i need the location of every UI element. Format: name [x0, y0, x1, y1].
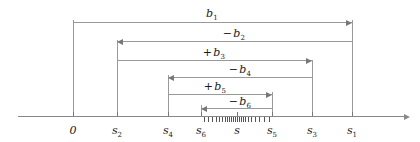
cluster-tick	[269, 117, 270, 122]
cluster-tick	[204, 117, 205, 122]
bracket-symbol-b4: b	[239, 63, 246, 76]
arrowhead-right-icon-b1	[346, 20, 352, 26]
number-line-axis	[18, 116, 404, 117]
endpoint-rule-v-s1	[352, 20, 353, 116]
bracket-label-b5: +b5	[204, 80, 226, 95]
axis-label-s5: s5	[267, 124, 277, 139]
axis-label-origin: 0	[70, 124, 77, 137]
arrowhead-right-icon-b5	[266, 92, 272, 98]
axis-arrowhead-icon	[404, 114, 410, 120]
axis-tick-s3	[312, 112, 313, 116]
bracket-index-b1: 1	[213, 14, 218, 22]
axis-label-index-s5: 5	[273, 131, 277, 139]
bracket-sign-b5: +	[204, 80, 213, 93]
bracket-label-b2: −b2	[223, 27, 245, 42]
bracket-label-b6: −b6	[229, 95, 251, 110]
bracket-sign-b3: +	[203, 46, 212, 59]
axis-label-index-s4: 4	[169, 131, 173, 139]
axis-label-s2: s2	[112, 124, 122, 139]
cluster-tick	[239, 117, 240, 122]
axis-tick-s	[237, 112, 238, 116]
bracket-label-b4: −b4	[229, 63, 251, 78]
endpoint-rule-v-s4	[168, 75, 169, 116]
axis-label-s3: s3	[307, 124, 317, 139]
cluster-tick	[225, 117, 226, 122]
axis-label-index-s1: 1	[353, 131, 357, 139]
cluster-tick	[231, 117, 232, 122]
cluster-tick	[227, 117, 228, 122]
cluster-tick	[243, 117, 244, 122]
cluster-tick	[208, 117, 209, 122]
arrowhead-left-icon-b6	[201, 106, 207, 112]
arrowhead-left-icon-b4	[168, 75, 174, 81]
axis-tick-s4	[168, 112, 169, 116]
bracket-label-b1: b1	[206, 7, 218, 22]
cluster-tick	[229, 117, 230, 122]
axis-label-index-s2: 2	[118, 131, 122, 139]
axis-label-text-origin: 0	[70, 124, 77, 137]
bracket-index-b3: 3	[221, 53, 226, 61]
cluster-tick	[264, 117, 265, 122]
axis-label-s: s	[234, 124, 240, 137]
cluster-tick	[222, 117, 223, 122]
cluster-tick	[216, 117, 217, 122]
bracket-index-b5: 5	[222, 87, 227, 95]
axis-tick-origin	[73, 112, 74, 116]
arrowhead-left-icon-b2	[117, 39, 123, 45]
bracket-symbol-b5: b	[214, 80, 221, 93]
axis-label-s4: s4	[163, 124, 173, 139]
bracket-sign-b4: −	[229, 63, 238, 76]
bracket-sign-b2: −	[223, 27, 232, 40]
axis-tick-s1	[352, 112, 353, 116]
axis-label-text-s: s	[234, 124, 240, 137]
cluster-tick	[255, 117, 256, 122]
nested-interval-diagram: b1−b2+b3−b4+b5−b6 0s2s4s6ss5s3s1	[0, 0, 420, 142]
bracket-label-b3: +b3	[203, 46, 225, 61]
axis-tick-s6	[201, 112, 202, 116]
cluster-tick	[245, 117, 246, 122]
cluster-tick	[259, 117, 260, 122]
cluster-tick	[212, 117, 213, 122]
axis-tick-s2	[117, 112, 118, 116]
bracket-sign-b6: −	[229, 95, 238, 108]
endpoint-rule-v-s3	[312, 60, 313, 116]
axis-label-s6: s6	[196, 124, 206, 139]
bracket-symbol-b3: b	[213, 46, 220, 59]
endpoint-rule-v-s2	[117, 40, 118, 116]
cluster-tick	[219, 117, 220, 122]
cluster-tick	[237, 117, 238, 122]
bracket-symbol-b6: b	[239, 95, 246, 108]
axis-label-s1: s1	[347, 124, 357, 139]
bracket-index-b4: 4	[247, 70, 252, 78]
arrowhead-right-icon-b3	[306, 58, 312, 64]
cluster-tick	[233, 117, 234, 122]
endpoint-rule-v-origin	[73, 20, 74, 116]
cluster-tick	[251, 117, 252, 122]
cluster-tick	[235, 117, 236, 122]
axis-tick-s5	[272, 112, 273, 116]
bracket-index-b2: 2	[241, 34, 246, 42]
bracket-index-b6: 6	[247, 102, 252, 110]
cluster-tick	[241, 117, 242, 122]
cluster-tick	[248, 117, 249, 122]
axis-label-index-s6: 6	[202, 131, 206, 139]
bracket-symbol-b2: b	[233, 27, 240, 40]
axis-label-index-s3: 3	[313, 131, 317, 139]
